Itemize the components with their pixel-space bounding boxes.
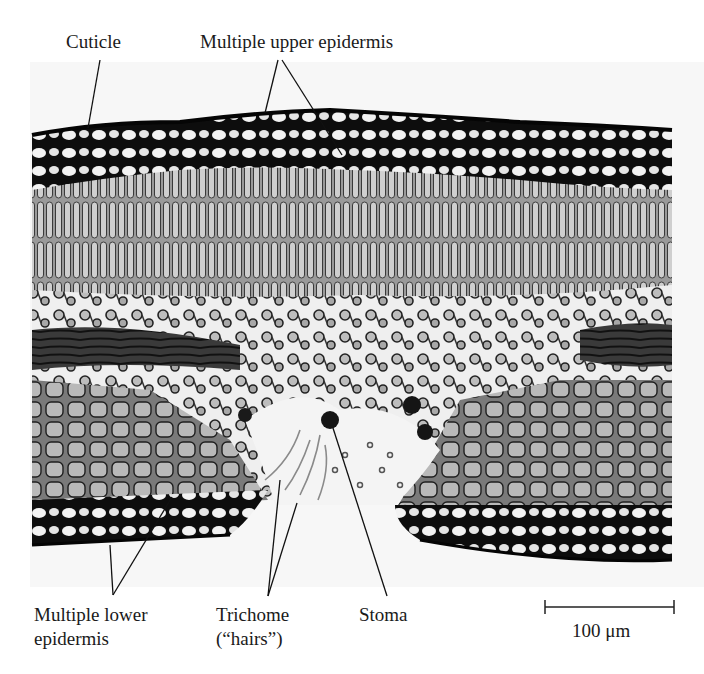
- label-cuticle: Cuticle: [66, 30, 121, 53]
- label-stoma: Stoma: [359, 603, 408, 626]
- label-trichome-line1: Trichome: [216, 603, 289, 626]
- vascular-bundle-right: [580, 323, 672, 366]
- label-trichome-line2: (“hairs”): [216, 627, 282, 650]
- scale-bar: [545, 600, 674, 614]
- label-lower-epidermis-line2: epidermis: [34, 627, 109, 650]
- label-upper-epidermis: Multiple upper epidermis: [200, 30, 393, 53]
- scale-bar-label: 100 μm: [572, 620, 630, 642]
- leaf-micrograph: [0, 0, 704, 674]
- label-lower-epidermis-line1: Multiple lower: [34, 603, 147, 626]
